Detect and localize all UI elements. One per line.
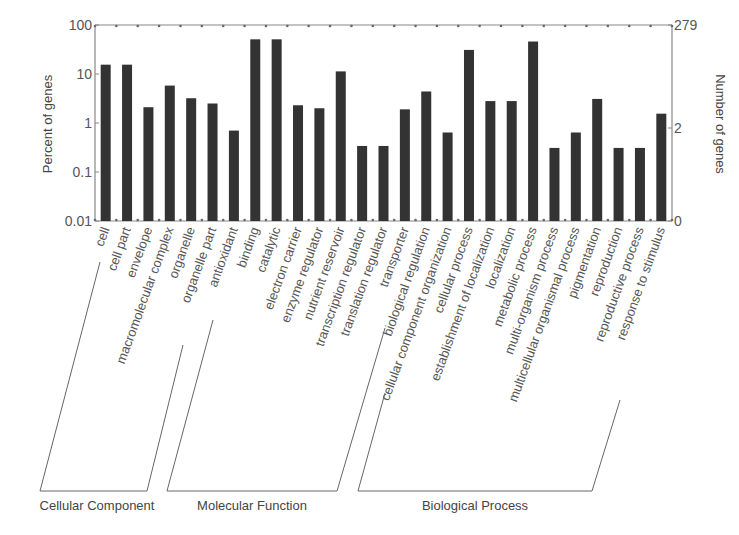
tick-dot bbox=[307, 25, 310, 28]
tick-dot bbox=[265, 25, 268, 28]
tick-dot bbox=[201, 25, 204, 28]
bar bbox=[186, 98, 196, 221]
left-y-axis: 0.010.1110100 bbox=[65, 17, 99, 229]
tick-dot bbox=[201, 219, 204, 222]
category-labels: cellcell partenvelopemacromolecular comp… bbox=[92, 224, 669, 404]
bar bbox=[250, 39, 260, 221]
tick-dot bbox=[243, 25, 246, 28]
bar bbox=[208, 104, 218, 221]
tick-dot bbox=[393, 219, 396, 222]
tick-dot bbox=[372, 219, 375, 222]
tick-dot bbox=[158, 25, 161, 28]
go-annotation-chart: 0.010.1110100 02279 Percent of genes Num… bbox=[0, 0, 739, 535]
tick-dot bbox=[329, 25, 332, 28]
tick-dot bbox=[286, 219, 289, 222]
right-y-tick-label: 2 bbox=[674, 120, 682, 136]
y-tick-label: 100 bbox=[69, 17, 93, 33]
tick-dot bbox=[457, 25, 460, 28]
bar bbox=[507, 101, 517, 221]
bar bbox=[101, 65, 111, 221]
tick-dot bbox=[243, 219, 246, 222]
tick-dot bbox=[307, 219, 310, 222]
group-bracket bbox=[358, 393, 620, 491]
tick-dot bbox=[542, 25, 545, 28]
tick-dot bbox=[628, 219, 631, 222]
bar bbox=[400, 109, 410, 221]
bar bbox=[122, 65, 132, 221]
group-bracket bbox=[40, 262, 183, 491]
tick-dot bbox=[628, 25, 631, 28]
bar bbox=[571, 132, 581, 221]
bar bbox=[336, 71, 346, 221]
tick-dot bbox=[436, 219, 439, 222]
tick-dot bbox=[179, 219, 182, 222]
group-bracket bbox=[167, 320, 385, 491]
tick-dot bbox=[607, 25, 610, 28]
tick-dot bbox=[115, 25, 118, 28]
tick-dot bbox=[350, 219, 353, 222]
bar bbox=[443, 132, 453, 221]
tick-dot bbox=[457, 219, 460, 222]
bar bbox=[293, 105, 303, 221]
tick-dot bbox=[436, 25, 439, 28]
tick-dot bbox=[158, 219, 161, 222]
tick-dot bbox=[414, 25, 417, 28]
bar bbox=[635, 148, 645, 221]
tick-dot bbox=[585, 219, 588, 222]
y-tick-label: 1 bbox=[84, 115, 92, 131]
right-y-tick-label: 0 bbox=[674, 213, 682, 229]
tick-dot bbox=[542, 219, 545, 222]
tick-dot bbox=[329, 219, 332, 222]
bar bbox=[485, 101, 495, 221]
tick-dot bbox=[372, 25, 375, 28]
tick-dot bbox=[414, 219, 417, 222]
tick-dot bbox=[136, 219, 139, 222]
tick-dot bbox=[136, 25, 139, 28]
bar bbox=[272, 39, 282, 221]
tick-dot bbox=[286, 25, 289, 28]
tick-dot bbox=[649, 25, 652, 28]
bar bbox=[165, 86, 175, 221]
tick-dot bbox=[179, 25, 182, 28]
tick-dot bbox=[265, 219, 268, 222]
tick-dot bbox=[500, 25, 503, 28]
bar bbox=[143, 107, 153, 221]
tick-dot bbox=[607, 219, 610, 222]
tick-dot bbox=[585, 25, 588, 28]
group-label: Molecular Function bbox=[197, 498, 307, 513]
tick-dot bbox=[564, 219, 567, 222]
right-axis-title: Number of genes bbox=[713, 74, 728, 174]
bar bbox=[528, 42, 538, 221]
bar bbox=[314, 108, 324, 221]
tick-dot bbox=[478, 25, 481, 28]
y-tick-label: 0.01 bbox=[65, 213, 92, 229]
bar bbox=[421, 91, 431, 221]
bar bbox=[549, 148, 559, 221]
tick-dot bbox=[478, 219, 481, 222]
bar bbox=[656, 114, 666, 221]
y-tick-label: 0.1 bbox=[73, 164, 93, 180]
tick-dot bbox=[350, 25, 353, 28]
tick-dot bbox=[564, 25, 567, 28]
tick-dot bbox=[649, 219, 652, 222]
tick-dot bbox=[115, 219, 118, 222]
tick-dot bbox=[222, 25, 225, 28]
bar bbox=[357, 146, 367, 221]
tick-dot bbox=[222, 219, 225, 222]
bar bbox=[229, 131, 239, 221]
tick-dot bbox=[521, 219, 524, 222]
bar bbox=[614, 148, 624, 221]
bar bbox=[379, 146, 389, 221]
tick-dot bbox=[393, 25, 396, 28]
bars bbox=[101, 39, 667, 221]
y-tick-label: 10 bbox=[76, 66, 92, 82]
group-label: Cellular Component bbox=[40, 498, 155, 513]
tick-dot bbox=[521, 25, 524, 28]
category-label: cell bbox=[92, 225, 113, 249]
tick-dot bbox=[500, 219, 503, 222]
bar bbox=[592, 99, 602, 221]
left-axis-title: Percent of genes bbox=[40, 74, 55, 173]
bar bbox=[464, 50, 474, 221]
right-y-tick-label: 279 bbox=[674, 17, 698, 33]
group-label: Biological Process bbox=[422, 498, 529, 513]
